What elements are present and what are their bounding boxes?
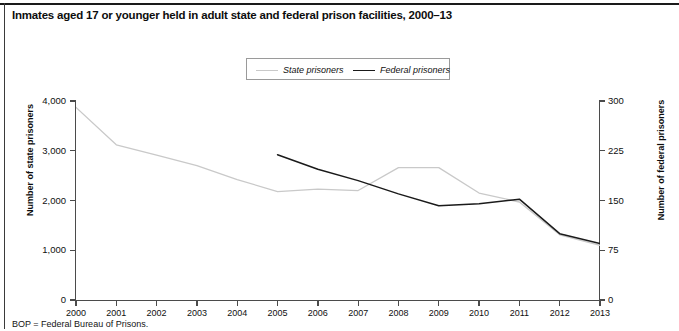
y-axis-left-tick <box>70 299 75 300</box>
x-axis-tick <box>519 301 520 306</box>
legend-swatch-federal-line <box>353 70 375 71</box>
y-axis-right-tick <box>600 100 605 101</box>
legend-item-federal-prisoners: Federal prisoners <box>353 62 450 78</box>
x-axis-tick-label: 2008 <box>378 308 418 318</box>
x-axis-tick <box>277 301 278 306</box>
x-axis-tick <box>156 301 157 306</box>
y-axis-right-tick-label: 0 <box>608 294 613 305</box>
x-axis-tick-label: 2005 <box>258 308 298 318</box>
x-axis-tick <box>438 301 439 306</box>
x-axis-spine <box>75 300 601 301</box>
series-lines <box>76 101 600 300</box>
y-axis-right-tick <box>600 299 605 300</box>
x-axis-tick-label: 2011 <box>499 308 539 318</box>
chart-legend: State prisoners Federal prisoners <box>246 58 450 80</box>
x-axis-tick-label: 2000 <box>56 308 96 318</box>
figure-title: Inmates aged 17 or younger held in adult… <box>12 9 652 21</box>
x-axis-tick-label: 2002 <box>137 308 177 318</box>
y-axis-left-tick <box>70 200 75 201</box>
x-axis-tick <box>478 301 479 306</box>
y-axis-left-title: Number of state prisoners <box>25 90 35 230</box>
figure-left-rule <box>4 3 5 329</box>
x-axis-tick <box>237 301 238 306</box>
x-axis-tick <box>75 301 76 306</box>
x-axis-tick-label: 2013 <box>580 308 620 318</box>
figure-footnote: BOP = Federal Bureau of Prisons. <box>12 319 148 329</box>
x-axis-tick-label: 2009 <box>419 308 459 318</box>
legend-label-state: State prisoners <box>283 65 344 75</box>
y-axis-right-tick-label: 225 <box>608 145 624 156</box>
y-axis-right-tick-label: 300 <box>608 95 624 106</box>
x-axis-tick <box>116 301 117 306</box>
x-axis-tick-label: 2012 <box>540 308 580 318</box>
y-axis-left-tick <box>70 100 75 101</box>
x-axis-tick-label: 2001 <box>96 308 136 318</box>
x-axis-tick <box>599 301 600 306</box>
x-axis-tick-label: 2004 <box>217 308 257 318</box>
y-axis-right-tick-label: 75 <box>608 244 619 255</box>
y-axis-right-tick <box>600 250 605 251</box>
legend-label-federal: Federal prisoners <box>380 65 450 75</box>
plot-area <box>76 101 600 300</box>
y-axis-right-tick <box>600 150 605 151</box>
x-axis-tick <box>559 301 560 306</box>
legend-item-state-prisoners: State prisoners <box>256 62 344 78</box>
y-axis-right-title: Number of federal prisoners <box>656 85 666 235</box>
x-axis-tick <box>358 301 359 306</box>
y-axis-right-tick <box>600 200 605 201</box>
x-axis-tick <box>398 301 399 306</box>
y-axis-right-tick-label: 150 <box>608 195 624 206</box>
figure-container: Inmates aged 17 or younger held in adult… <box>0 0 679 331</box>
x-axis-tick-label: 2006 <box>298 308 338 318</box>
y-axis-left-tick <box>70 250 75 251</box>
figure-top-rule <box>0 3 679 5</box>
y-axis-left-tick <box>70 150 75 151</box>
x-axis-tick-label: 2010 <box>459 308 499 318</box>
x-axis-tick <box>196 301 197 306</box>
y-axis-left-tick-label: 1,000 <box>0 244 66 255</box>
x-axis-tick-label: 2007 <box>338 308 378 318</box>
x-axis-tick <box>317 301 318 306</box>
line-state-prisoners <box>76 107 600 245</box>
legend-swatch-state-line <box>256 70 278 71</box>
y-axis-left-tick-label: 0 <box>0 294 66 305</box>
x-axis-tick-label: 2003 <box>177 308 217 318</box>
